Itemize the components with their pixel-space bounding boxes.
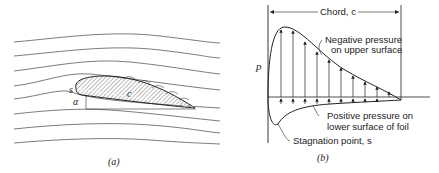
caption-a: (a) — [108, 156, 120, 168]
negative-pressure-line2: on upper surface — [331, 44, 402, 55]
leader-negative — [319, 40, 322, 55]
stagnation-label-a: s — [69, 84, 73, 95]
positive-pressure-line1: Positive pressure on — [327, 110, 413, 121]
leader-stagnation — [278, 124, 290, 141]
chord-label-a: c — [127, 88, 132, 99]
positive-pressure-line2: lower surface of foil — [327, 121, 409, 132]
caption-b: (b) — [317, 152, 329, 164]
panel-a-flow-diagram: s α c (a) — [14, 34, 220, 168]
lower-arrows — [281, 99, 377, 104]
airfoil — [76, 76, 195, 108]
chord-label: Chord, c — [320, 6, 356, 17]
p-axis-label: p — [255, 60, 262, 72]
angle-label: α — [73, 96, 79, 107]
panel-b-pressure-diagram: Chord, c p — [255, 5, 430, 164]
stagnation-point-label: Stagnation point, s — [293, 135, 372, 146]
leader-positive — [313, 106, 319, 116]
